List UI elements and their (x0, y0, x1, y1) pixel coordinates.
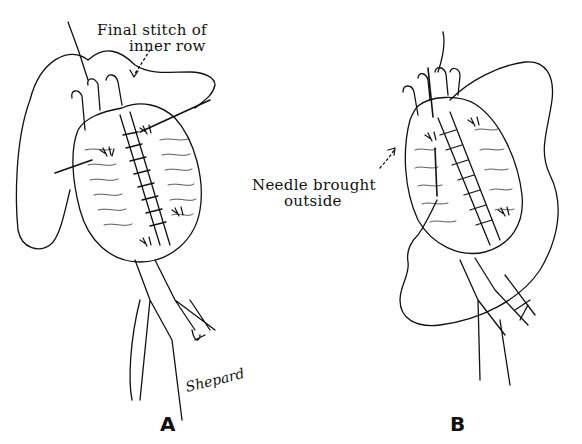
suture-thread-icon (16, 22, 215, 249)
panel-b: B (300, 0, 582, 444)
panel-b-illustration (300, 0, 582, 444)
forceps-icon (460, 258, 535, 385)
annotation-arrow-icon (380, 150, 394, 168)
panel-label-b: B (450, 412, 465, 436)
panel-a: Final stitch of inner row Shepard A (0, 0, 300, 444)
tissue-outline (405, 97, 522, 253)
tissue-outline (73, 104, 201, 262)
annotation-label-b: Needle brought outside (252, 177, 376, 209)
annotation-line-1: Final stitch of (97, 22, 207, 38)
panel-label-a: A (160, 412, 175, 436)
annotation-line-1: Needle brought (252, 177, 376, 193)
needle-icon (55, 100, 210, 173)
suture-thread-icon (400, 32, 558, 326)
annotation-line-2: inner row (97, 38, 207, 54)
forceps-icon (135, 260, 215, 420)
annotation-line-2: outside (252, 193, 376, 209)
panel-a-illustration (0, 0, 300, 444)
annotation-label-a: Final stitch of inner row (97, 22, 207, 54)
